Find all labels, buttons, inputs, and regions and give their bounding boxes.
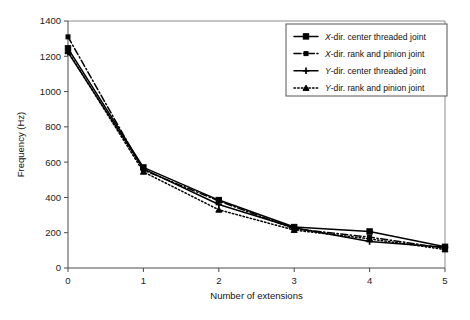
y-tick-label: 0	[56, 262, 61, 273]
x-axis: 012345	[65, 268, 447, 286]
marker-square	[367, 229, 372, 234]
x-tick-label: 4	[367, 275, 372, 286]
marker-small-square	[66, 35, 70, 39]
legend-label: Y-dir. center threaded joint	[325, 66, 426, 76]
y-tick-label: 1400	[40, 15, 61, 26]
y-axis: 0200400600800100012001400	[40, 15, 68, 273]
y-tick-label: 400	[45, 192, 61, 203]
x-tick-label: 0	[65, 275, 70, 286]
marker-triangle	[216, 207, 222, 212]
x-axis-title: Number of extensions	[210, 290, 303, 301]
legend-label: X-dir. center threaded joint	[324, 32, 426, 42]
legend: X-dir. center threaded jointX-dir. rank …	[286, 24, 447, 96]
y-tick-label: 1000	[40, 86, 61, 97]
legend-label: Y-dir. rank and pinion joint	[325, 83, 425, 93]
chart-canvas: 0200400600800100012001400012345Number of…	[0, 0, 470, 320]
marker-square	[303, 34, 308, 39]
legend-label: X-dir. rank and pinion joint	[324, 49, 425, 59]
x-tick-label: 5	[442, 275, 447, 286]
x-tick-label: 1	[141, 275, 146, 286]
x-tick-label: 3	[292, 275, 297, 286]
y-tick-label: 1200	[40, 51, 61, 62]
y-tick-label: 600	[45, 157, 61, 168]
y-tick-label: 800	[45, 121, 61, 132]
y-axis-title: Frequency (Hz)	[15, 112, 26, 177]
marker-small-square	[304, 52, 308, 56]
x-tick-label: 2	[216, 275, 221, 286]
y-tick-label: 200	[45, 227, 61, 238]
frequency-vs-extensions-chart: 0200400600800100012001400012345Number of…	[0, 0, 470, 320]
